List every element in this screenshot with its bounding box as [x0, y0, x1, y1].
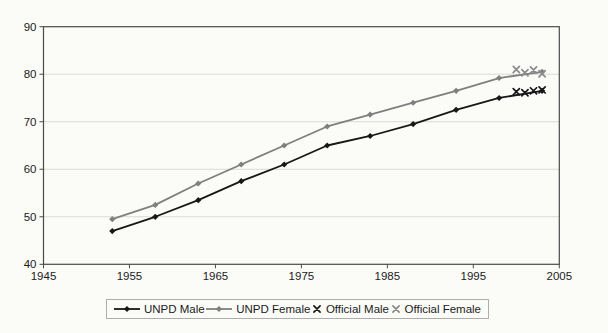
legend-marker-glyph: [312, 304, 322, 314]
data-point-official-male-2000: [513, 89, 519, 95]
data-point-unpd-female-1983: [367, 112, 373, 118]
data-point-unpd-male-1968: [238, 178, 244, 184]
unpd-male-line-diamond-icon: [114, 304, 140, 314]
data-point-unpd-female-1993: [453, 88, 459, 94]
legend-label-official-male: Official Male: [326, 303, 389, 315]
data-point-unpd-male-1958: [152, 214, 158, 220]
data-point-unpd-male-1963: [195, 197, 201, 203]
legend-item-unpd-female: UNPD Female: [206, 303, 310, 315]
series-official-male: [513, 87, 545, 96]
legend-diamond: [216, 306, 222, 312]
data-point-unpd-male-1993: [453, 107, 459, 113]
legend-label-official-female: Official Female: [405, 303, 481, 315]
x-axis-tick-label-1975: 1975: [289, 270, 315, 282]
data-point-unpd-female-1958: [152, 202, 158, 208]
data-point-unpd-female-1998: [496, 75, 502, 81]
life-expectancy-chart: 4050607080901945195519651975198519952005…: [0, 0, 608, 333]
data-point-unpd-male-1983: [367, 133, 373, 139]
data-point-unpd-male-1953: [109, 228, 115, 234]
official-male-x-marker-icon: [312, 304, 322, 314]
y-axis-tick-label-60: 60: [24, 163, 37, 175]
legend-diamond: [124, 306, 130, 312]
legend-label-unpd-male: UNPD Male: [144, 303, 205, 315]
y-axis-tick-label-40: 40: [24, 258, 37, 270]
legend-label-unpd-female: UNPD Female: [236, 303, 310, 315]
x-axis-tick-label-1965: 1965: [203, 270, 229, 282]
data-point-unpd-female-1968: [238, 161, 244, 167]
data-point-unpd-female-1963: [195, 180, 201, 186]
data-point-unpd-male-1973: [281, 161, 287, 167]
y-axis-tick-label-80: 80: [24, 68, 37, 80]
legend-item-official-female: Official Female: [391, 303, 481, 315]
legend-marker-glyph: [206, 304, 232, 314]
legend-marker-glyph: [114, 304, 140, 314]
official-female-x-marker-icon: [391, 304, 401, 314]
series-line-unpd-male: [112, 91, 542, 231]
legend-item-unpd-male: UNPD Male: [114, 303, 205, 315]
series-unpd-male: [109, 88, 545, 234]
x-axis-tick-label-1945: 1945: [31, 270, 57, 282]
data-point-official-female-2002: [530, 67, 536, 73]
data-point-unpd-female-1973: [281, 142, 287, 148]
x-axis-tick-label-1985: 1985: [375, 270, 401, 282]
legend-x: [392, 306, 398, 312]
legend-x: [314, 306, 320, 312]
chart-legend: UNPD Male UNPD Female Official Male Offi…: [106, 299, 489, 319]
legend-item-official-male: Official Male: [312, 303, 389, 315]
data-point-unpd-female-1988: [410, 100, 416, 106]
y-axis-tick-label-90: 90: [24, 21, 37, 33]
y-axis-tick-label-70: 70: [24, 116, 37, 128]
data-point-unpd-female-1978: [324, 123, 330, 129]
unpd-female-line-diamond-icon: [206, 304, 232, 314]
chart-canvas: 4050607080901945195519651975198519952005: [0, 0, 608, 333]
data-point-official-female-2000: [513, 66, 519, 72]
legend-marker-glyph: [391, 304, 401, 314]
data-point-unpd-male-1998: [496, 95, 502, 101]
y-axis-tick-label-50: 50: [24, 211, 37, 223]
x-axis-tick-label-2005: 2005: [547, 270, 573, 282]
data-point-unpd-male-1978: [324, 142, 330, 148]
x-axis-tick-label-1995: 1995: [461, 270, 487, 282]
x-axis-tick-label-1955: 1955: [117, 270, 143, 282]
